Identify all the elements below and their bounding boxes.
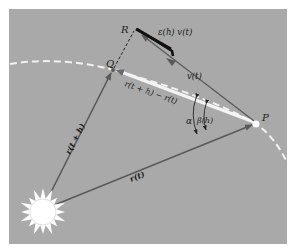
label-velocity: v(t): [187, 71, 202, 81]
label-beta: β(h): [196, 116, 213, 125]
label-error-term: ε(h) v(t): [158, 27, 192, 37]
label-r: R: [120, 24, 129, 35]
label-alpha: α: [186, 116, 192, 126]
orbit-diagram: R Q P ε(h) v(t) v(t) r(t + h) − r(t) α β…: [0, 0, 297, 249]
point-p: [253, 121, 260, 128]
label-p: P: [261, 112, 269, 123]
label-q: Q: [106, 58, 114, 69]
